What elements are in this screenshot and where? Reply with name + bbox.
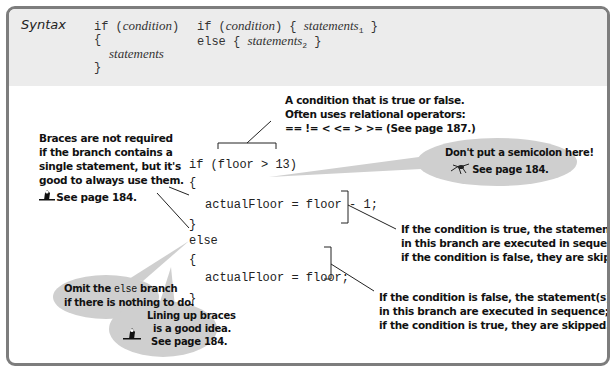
- note-text: Omit the: [64, 283, 114, 294]
- note-line: Braces are not required: [39, 131, 184, 145]
- code-text: actualFloor = floor - 1;: [205, 198, 378, 212]
- code-line-if: if (floor > 13): [189, 157, 297, 173]
- note-line: if the branch contains a: [39, 145, 184, 159]
- note-line: in this branch are executed in sequence;: [401, 236, 610, 250]
- note-line: Often uses relational operators:: [285, 107, 475, 121]
- note-line: if the condition is false, they are skip…: [401, 250, 610, 264]
- note-line: is a good idea.: [143, 322, 236, 335]
- omit-else-note: Omit the else branch if there is nothing…: [64, 282, 194, 309]
- code-line-open-brace: {: [189, 175, 196, 191]
- semicolon-note-line2: See page 184.: [449, 161, 549, 177]
- note-line: good to always use them.: [39, 173, 184, 187]
- note-line: if there is nothing to do.: [64, 296, 194, 309]
- syntax-box: Syntax if (condition) { statements } if …: [6, 6, 610, 366]
- tip-icon: [123, 327, 141, 347]
- tip-icon: [39, 189, 53, 201]
- note-line: If the condition is true, the statement(…: [401, 222, 610, 236]
- note-line: Omit the else branch: [64, 282, 194, 296]
- note-line: == != < <= > >= (See page 187.): [285, 121, 475, 135]
- page-ref: See page 184.: [56, 191, 136, 203]
- keyword-else: else: [114, 284, 137, 295]
- note-line: See page 184.: [143, 335, 236, 348]
- page-ref: See page 184.: [472, 164, 548, 175]
- note-line: in this branch are executed in sequence;: [379, 304, 610, 318]
- condition-note: A condition that is true or false. Often…: [285, 93, 475, 135]
- braces-note: Braces are not required if the branch co…: [39, 131, 184, 187]
- code-line-open-brace-2: {: [189, 252, 196, 268]
- code-line-assign-true: actualFloor = floor - 1;: [205, 197, 378, 213]
- note-line: single statement, but it's: [39, 159, 184, 173]
- code-text: actualFloor = floor;: [205, 271, 349, 285]
- note-text: branch: [137, 283, 177, 294]
- semicolon-note-line1: Don't put a semicolon here!: [445, 146, 594, 160]
- code-line-else: else: [189, 233, 218, 249]
- braces-ref: See page 184.: [39, 189, 137, 204]
- false-branch-note: If the condition is false, the statement…: [379, 290, 610, 332]
- note-line: A condition that is true or false.: [285, 93, 475, 107]
- bug-icon: [449, 161, 469, 173]
- note-line: Lining up braces: [143, 309, 236, 322]
- code-line-close-brace: }: [189, 217, 196, 233]
- note-line: If the condition is false, the statement…: [379, 290, 610, 304]
- lining-up-note: Lining up braces is a good idea. See pag…: [143, 309, 236, 348]
- note-line: if the condition is true, they are skipp…: [379, 318, 610, 332]
- code-line-assign-false: actualFloor = floor;: [205, 270, 349, 286]
- true-branch-note: If the condition is true, the statement(…: [401, 222, 610, 264]
